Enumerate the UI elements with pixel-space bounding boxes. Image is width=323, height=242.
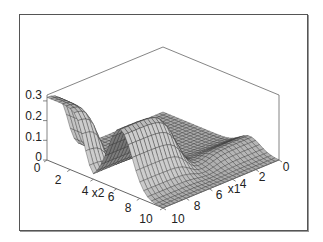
x2-tick-label: 8 <box>125 201 132 215</box>
x2-tick-label: 6 <box>108 190 115 204</box>
x1-tick-label: 4 <box>240 177 247 191</box>
x1-tick-label: 6 <box>216 188 223 202</box>
x2-tick-label: 2 <box>55 173 62 187</box>
z-tick-label: 0.1 <box>25 130 42 144</box>
surface-plot: 0.3 0.2 0.1 0 0 2 4 x2 6 8 10 10 8 6 x1 … <box>0 0 323 242</box>
x2-tick-label: 10 <box>139 212 153 226</box>
x1-tick-label: 8 <box>194 199 201 213</box>
x2-axis-label: x2 <box>92 186 105 200</box>
z-tick-label: 0.3 <box>25 88 42 102</box>
z-tick-label: 0.2 <box>25 109 42 123</box>
x1-tick-label: 10 <box>171 212 185 226</box>
x2-tick-label: 4 <box>82 184 89 198</box>
x1-tick-label: 0 <box>283 160 290 174</box>
x1-tick-label: 2 <box>259 170 266 184</box>
x2-tick-label: 0 <box>34 161 41 175</box>
